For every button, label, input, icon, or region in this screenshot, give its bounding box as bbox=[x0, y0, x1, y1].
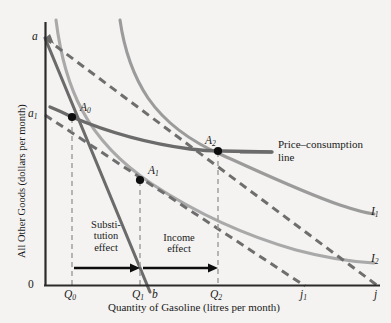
x-tick-Q0-sub: 0 bbox=[72, 293, 76, 302]
price-consumption-line-text-1: Price–consumption bbox=[278, 138, 363, 151]
income-effect-annotation: Income effect bbox=[150, 232, 208, 255]
income-effect-text-1: Income bbox=[150, 232, 208, 243]
x-axis-title: Quantity of Gasoline (litres per month) bbox=[108, 302, 280, 314]
price-consumption-line-annotation: Price–consumption line bbox=[278, 138, 363, 164]
curve-label-I1: I1 bbox=[371, 205, 379, 219]
x-tick-j1-sub: 1 bbox=[303, 293, 307, 302]
point-label-A0: A0 bbox=[80, 101, 91, 115]
point-label-A2: A2 bbox=[205, 134, 216, 148]
y-axis-title: All Other Goods (dollars per month) bbox=[16, 104, 27, 258]
point-label-A2-sub: 2 bbox=[212, 139, 216, 148]
substitution-effect-text-3: effect bbox=[78, 242, 134, 253]
point-label-A1: A1 bbox=[148, 164, 159, 178]
x-tick-Q2-sub: 2 bbox=[218, 293, 222, 302]
y-tick-a1: a1 bbox=[28, 107, 38, 121]
curve-label-I2: I2 bbox=[371, 252, 379, 266]
x-tick-b: b bbox=[152, 288, 158, 300]
substitution-effect-annotation: Substi- tution effect bbox=[78, 219, 134, 253]
x-tick-Q0: Q0 bbox=[64, 288, 76, 302]
point-label-A1-sub: 1 bbox=[155, 169, 159, 178]
point-label-A0-sub: 0 bbox=[87, 106, 91, 115]
y-tick-a1-sub: 1 bbox=[34, 112, 38, 121]
point-label-A2-base: A bbox=[205, 134, 212, 146]
price-consumption-line-text-2: line bbox=[278, 151, 363, 164]
curve-label-I1-sub: 1 bbox=[375, 210, 379, 219]
substitution-effect-text-1: Substi- bbox=[78, 219, 134, 230]
income-effect-text-2: effect bbox=[150, 243, 208, 254]
x-tick-j1: j1 bbox=[300, 288, 307, 302]
point-A1 bbox=[136, 176, 144, 184]
x-tick-Q1: Q1 bbox=[132, 288, 144, 302]
point-label-A1-base: A bbox=[148, 164, 155, 176]
curve-label-I2-sub: 2 bbox=[375, 257, 379, 266]
origin-label: 0 bbox=[28, 278, 34, 290]
figure-container: All Other Goods (dollars per month) Quan… bbox=[0, 0, 391, 323]
budget-line-a1-j1 bbox=[45, 115, 305, 286]
point-A0 bbox=[68, 113, 76, 121]
x-tick-Q1-sub: 1 bbox=[140, 293, 144, 302]
curve-I1 bbox=[120, 20, 374, 214]
point-label-A0-base: A bbox=[80, 101, 87, 113]
x-tick-Q2: Q2 bbox=[210, 288, 222, 302]
x-tick-j: j bbox=[374, 288, 377, 300]
y-tick-a: a bbox=[32, 30, 38, 42]
substitution-effect-text-2: tution bbox=[78, 230, 134, 241]
income-effect-arrow-head bbox=[208, 264, 218, 273]
